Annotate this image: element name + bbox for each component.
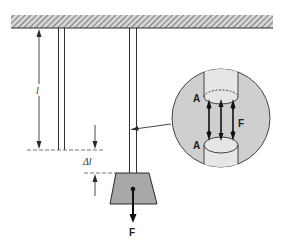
elongation-label: Δl — [82, 156, 92, 167]
leader-arrow-icon — [131, 126, 139, 130]
cross-section-detail: A A F — [172, 60, 270, 175]
loaded-rod — [130, 28, 137, 173]
arrow-down-icon — [93, 141, 98, 149]
arrow-up-icon — [37, 29, 42, 37]
tensile-rod-diagram: l Δl F — [0, 0, 286, 245]
elongation-dimension: Δl — [82, 125, 98, 196]
arrow-down-icon — [37, 141, 42, 149]
arrow-up-icon — [93, 174, 98, 182]
force-label: F — [129, 227, 135, 238]
force-arrow-icon — [130, 214, 137, 223]
length-dimension: l — [34, 29, 44, 149]
unloaded-rod — [59, 28, 65, 150]
ceiling-support — [11, 15, 273, 28]
area-label-bottom: A — [193, 140, 200, 151]
weight-block: F — [110, 173, 157, 238]
length-label: l — [36, 85, 39, 96]
detail-force-label: F — [238, 118, 244, 129]
area-label-top: A — [193, 93, 200, 104]
